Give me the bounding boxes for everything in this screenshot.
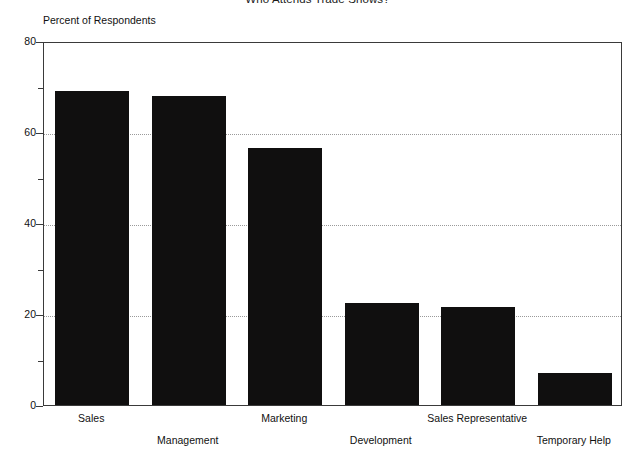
y-axis-title: Percent of Respondents: [43, 14, 156, 26]
y-tick-major: [36, 406, 43, 407]
y-tick-label: 60: [6, 127, 36, 138]
x-tick-label: Marketing: [261, 412, 307, 424]
bar: [152, 96, 226, 405]
bar: [538, 373, 612, 405]
y-tick-label: 20: [6, 309, 36, 320]
x-tick-label: Development: [350, 434, 412, 446]
y-tick-label: 80: [6, 36, 36, 47]
chart-figure: Who Attends Trade Shows? Percent of Resp…: [0, 0, 635, 469]
bar: [441, 307, 515, 405]
gridline: [44, 134, 621, 135]
bar: [248, 148, 322, 405]
bar: [55, 91, 129, 405]
gridline: [44, 225, 621, 226]
y-tick-major: [36, 42, 43, 43]
gridline: [44, 316, 621, 317]
x-tick-label: Sales: [78, 412, 104, 424]
plot-area: [43, 42, 622, 406]
bar: [345, 303, 419, 405]
x-tick-label: Sales Representative: [427, 412, 527, 424]
x-tick-label: Temporary Help: [537, 434, 611, 446]
y-tick-label: 40: [6, 218, 36, 229]
y-tick-major: [36, 133, 43, 134]
y-tick-label: 0: [6, 400, 36, 411]
y-tick-major: [36, 315, 43, 316]
y-tick-major: [36, 224, 43, 225]
x-tick-label: Management: [157, 434, 218, 446]
chart-title: Who Attends Trade Shows?: [0, 0, 635, 5]
